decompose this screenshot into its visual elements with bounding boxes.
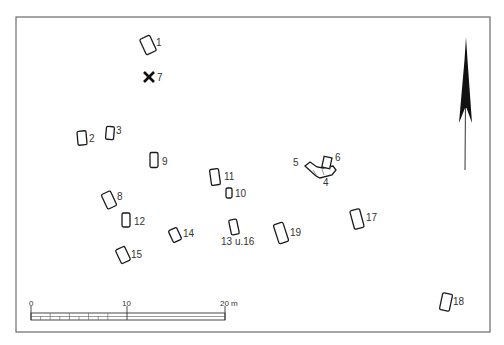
grave-label: 15 [131,249,143,260]
north-arrow-shaft [465,100,466,170]
graves-layer: 1238910111213 u.161415171819 [77,35,465,311]
scale-bar: 0 10 20 m [29,299,238,320]
grave-14: 14 [168,227,194,243]
grave-label: 11 [224,171,235,182]
grave-4-5-outline [305,162,336,178]
grave-3: 3 [105,125,122,140]
grave-label: 14 [183,228,195,239]
grave-12: 12 [122,213,146,227]
grave-label: 19 [290,227,302,238]
grave-1: 1 [139,35,162,55]
grave-label-5: 5 [293,157,299,168]
north-arrow [459,37,472,170]
map-frame [16,17,490,332]
grave-18: 18 [439,293,464,312]
grave-label: 9 [162,156,168,167]
grave-label: 13 u.16 [221,236,255,247]
grave-label: 18 [453,296,465,307]
grave-outline [350,209,365,230]
grave-outline [439,293,452,312]
grave-9: 9 [150,153,168,168]
grave-outline [105,126,114,140]
grave-label: 12 [134,216,146,227]
grave-17: 17 [350,209,378,230]
grave-label: 3 [116,125,122,136]
grave-label: 10 [235,188,247,199]
grave-6 [322,156,332,168]
grave-15: 15 [115,246,142,264]
grave-label: 1 [156,37,162,48]
grave-outline [229,219,240,235]
grave-11: 11 [209,168,234,185]
grave-10: 10 [226,188,247,199]
grave-8: 8 [101,191,123,210]
grave-outline [168,227,182,243]
grave-outline [115,246,130,264]
grave-label-4: 4 [323,177,329,188]
cross-marker-7: 7 [144,72,163,83]
grave-label-6: 6 [335,152,341,163]
grave-outline [139,35,156,55]
grave-cluster-4-5-6: 5 6 4 [293,152,341,188]
grave-plan-map: 1238910111213 u.161415171819 5 6 4 7 0 1… [0,0,504,345]
scale-label-10: 10 [122,299,131,308]
grave-outline [209,168,220,185]
grave-label: 17 [366,212,378,223]
grave-label: 8 [117,191,123,202]
scale-label-0: 0 [29,299,34,308]
grave-label: 2 [89,133,95,144]
marker-label-7: 7 [157,72,163,83]
grave-outline [101,191,117,210]
grave-13u16: 13 u.16 [221,219,255,247]
grave-outline [273,222,289,244]
grave-outline [122,213,130,227]
grave-19: 19 [273,222,301,244]
scale-label-20m: 20 m [220,299,238,308]
grave-outline [150,153,158,168]
grave-outline [77,131,87,146]
grave-outline [226,188,232,198]
grave-2: 2 [77,131,95,146]
